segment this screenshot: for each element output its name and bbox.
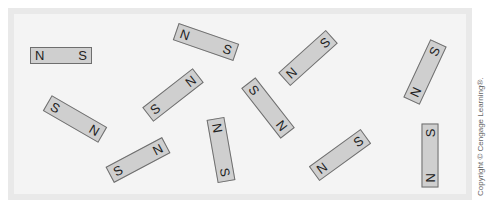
magnet-pole-label: N bbox=[284, 65, 300, 81]
magnet-pole-label: S bbox=[218, 167, 232, 178]
magnet-pole-label: S bbox=[221, 42, 233, 57]
magnet-pole-label: S bbox=[78, 49, 87, 62]
bar-magnet: NS bbox=[422, 123, 439, 187]
magnet-pole-label: N bbox=[150, 142, 164, 158]
magnet-pole-label: N bbox=[314, 160, 329, 176]
magnet-pole-label: N bbox=[183, 73, 198, 89]
magnet-pole-label: S bbox=[246, 83, 262, 98]
magnet-pole-label: N bbox=[424, 173, 437, 182]
magnet-pole-label: S bbox=[424, 128, 437, 137]
magnet-pole-label: N bbox=[178, 27, 191, 42]
figure-frame bbox=[8, 8, 472, 200]
magnet-pole-label: S bbox=[48, 100, 62, 116]
magnet-pole-label: N bbox=[408, 85, 424, 99]
bar-magnet: NS bbox=[30, 47, 92, 64]
magnet-pole-label: S bbox=[148, 101, 163, 117]
magnet-pole-label: N bbox=[210, 122, 224, 134]
magnet-pole-label: N bbox=[87, 122, 102, 138]
magnet-pole-label: N bbox=[274, 118, 290, 133]
magnet-pole-label: S bbox=[111, 163, 125, 179]
magnet-pole-label: S bbox=[317, 35, 332, 50]
figure-background bbox=[14, 14, 466, 194]
copyright-notice: Copyright © Cengage Learning®. bbox=[476, 77, 485, 196]
magnet-pole-label: N bbox=[35, 49, 44, 62]
magnet-pole-label: S bbox=[351, 134, 366, 150]
magnet-pole-label: S bbox=[427, 45, 442, 58]
